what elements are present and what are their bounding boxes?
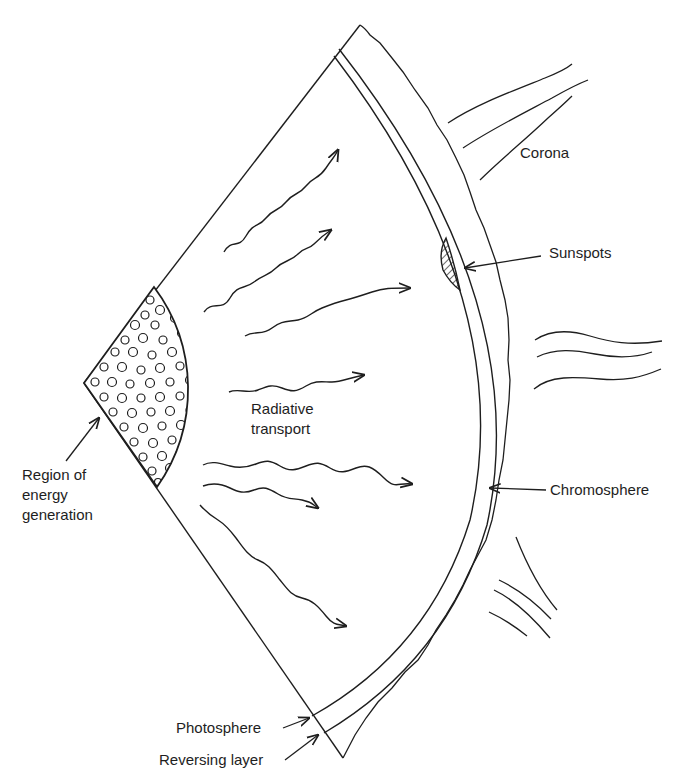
reversing-layer-label: Reversing layer: [159, 750, 263, 770]
region-energy-generation-label-line2: energy: [22, 485, 68, 505]
corona-label: Corona: [520, 143, 569, 163]
chromosphere-pointer: [490, 488, 546, 490]
photosphere-arc: [312, 56, 481, 716]
corona-streamers-lower: [489, 537, 557, 638]
reversing-layer-pointer: [285, 735, 318, 760]
radiative-transport-label-line2: transport: [251, 419, 310, 439]
region-energy-generation-label-line1: Region of: [22, 465, 86, 485]
photosphere-pointer: [283, 718, 309, 728]
radiative-transport-label-line1: Radiative: [251, 399, 314, 419]
sunspots-pointer: [465, 256, 541, 268]
energy-generation-core: [84, 287, 228, 488]
photosphere-label: Photosphere: [176, 718, 261, 738]
reversing-layer-arc: [324, 49, 496, 733]
sunspots-label: Sunspots: [549, 243, 612, 263]
region-energy-generation-label-line3: generation: [22, 505, 93, 525]
corona-streamers-middle: [534, 332, 662, 389]
region-pointer: [66, 418, 99, 461]
sun-cross-section-diagram: [0, 0, 683, 782]
radiative-transport-arrows: [200, 150, 412, 626]
chromosphere-label: Chromosphere: [550, 480, 649, 500]
